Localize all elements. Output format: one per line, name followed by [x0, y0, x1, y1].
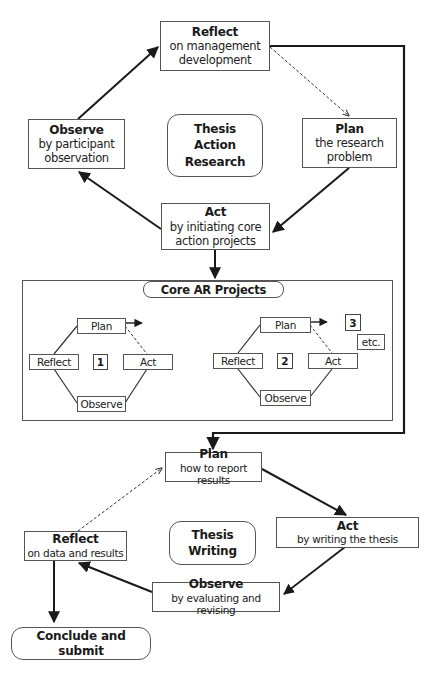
plan-line-1: the research	[315, 136, 384, 150]
plan-title: Plan	[335, 122, 364, 137]
reflect-data-line: on data and results	[28, 547, 124, 560]
project-2-act: Act	[308, 353, 358, 369]
observe-evaluating-title: Observe	[189, 577, 244, 592]
reflect-line-1: on management	[169, 39, 260, 53]
reflect-management-box: Reflect on management development	[160, 21, 270, 71]
conclude-submit-box: Conclude and submit	[11, 627, 151, 660]
observe-participant-box: Observe by participant observation	[28, 119, 125, 169]
reflect-data-title: Reflect	[52, 532, 98, 547]
thesis-action-research-label: Thesis Action Research	[167, 114, 263, 177]
act-writing-title: Act	[337, 519, 359, 534]
act-line-2: action projects	[175, 234, 255, 248]
center-line-2: Action	[194, 137, 236, 153]
project-1-reflect: Reflect	[29, 354, 79, 370]
plan-report-line: how to report results	[166, 462, 261, 488]
project-1-act: Act	[123, 354, 173, 370]
act-writing-line: by writing the thesis	[297, 533, 398, 546]
conclude-label: Conclude and submit	[12, 629, 150, 658]
project-1-number: 1	[93, 354, 108, 370]
project-1-plan: Plan	[77, 318, 126, 334]
plan-line-2: problem	[327, 150, 372, 164]
project-3-etc: etc.	[357, 334, 385, 350]
observe-line-2: observation	[44, 151, 109, 165]
act-line-1: by initiating core	[170, 220, 262, 234]
plan-report-box: Plan how to report results	[165, 452, 262, 482]
reflect-title: Reflect	[192, 25, 238, 40]
writing-center-line-1: Thesis	[191, 527, 233, 543]
project-2-observe: Observe	[260, 390, 311, 406]
plan-research-box: Plan the research problem	[302, 118, 397, 168]
thesis-writing-label: Thesis Writing	[169, 521, 256, 565]
project-1-observe: Observe	[77, 396, 126, 412]
project-2-plan: Plan	[260, 317, 311, 333]
project-2-reflect: Reflect	[213, 353, 263, 369]
act-writing-box: Act by writing the thesis	[276, 517, 419, 548]
observe-evaluating-line: by evaluating and revising	[153, 592, 279, 618]
writing-center-line-2: Writing	[188, 543, 237, 559]
center-line-1: Thesis	[194, 121, 236, 137]
reflect-data-box: Reflect on data and results	[24, 531, 127, 561]
observe-evaluating-box: Observe by evaluating and revising	[152, 582, 280, 612]
reflect-line-2: development	[179, 53, 252, 67]
observe-line-1: by participant	[38, 137, 114, 151]
project-2-number: 2	[277, 353, 293, 369]
act-title: Act	[205, 205, 227, 220]
act-initiating-box: Act by initiating core action projects	[161, 203, 270, 250]
core-ar-projects-title: Core AR Projects	[143, 281, 284, 298]
center-line-3: Research	[185, 154, 246, 170]
project-3-number: 3	[345, 314, 361, 331]
plan-report-title: Plan	[199, 447, 228, 462]
observe-title: Observe	[49, 123, 104, 138]
